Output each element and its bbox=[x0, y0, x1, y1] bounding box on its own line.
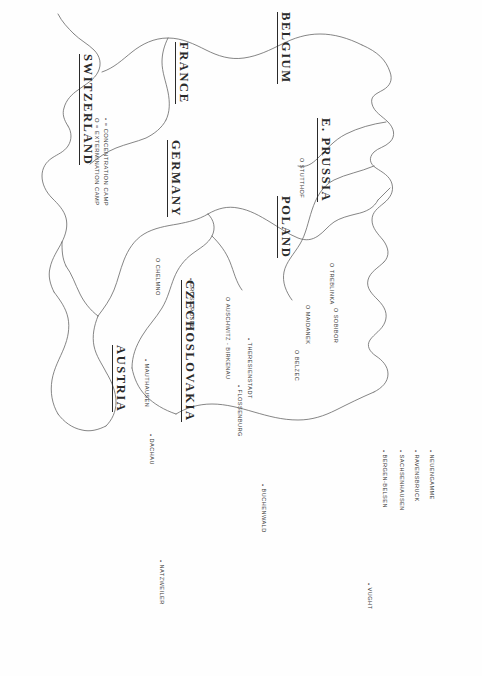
camp-label-treblinka: TREBLINKA bbox=[328, 270, 334, 305]
concentration-camp-icon: • bbox=[381, 450, 387, 453]
camp-natzweiler[interactable]: • NATZWEILER bbox=[158, 560, 164, 605]
border-germany-swiss-line bbox=[62, 242, 66, 266]
extermination-camp-icon: O bbox=[329, 263, 334, 268]
camp-label-mauthausen: MAUTHAUSEN bbox=[143, 364, 149, 408]
map-canvas: E. PRUSSIA POLAND CZECHOSLOVAKIA AUSTRIA… bbox=[0, 0, 482, 676]
camp-label-neuengamme: NEUENGAMME bbox=[428, 455, 434, 500]
concentration-camp-icon: • bbox=[428, 450, 434, 453]
camp-auschwitz-birkenau[interactable]: O AUSCHWITZ - BIRKENAU bbox=[224, 297, 230, 379]
camp-label-natzweiler: NATZWEILER bbox=[158, 565, 164, 605]
camp-gross-rosen[interactable]: • GROSS-ROSEN bbox=[188, 278, 194, 329]
concentration-camp-icon: • bbox=[413, 450, 419, 453]
border-germany-poland bbox=[208, 200, 378, 240]
border-poland-east bbox=[176, 392, 374, 420]
concentration-camp-icon: • bbox=[148, 434, 154, 437]
concentration-camp-icon: • bbox=[366, 583, 372, 586]
extermination-camp-icon: O bbox=[294, 350, 299, 355]
map-legend: • = CONCENTRATION CAMP O = EXTERMINATION… bbox=[92, 118, 110, 206]
camp-label-belzec: BELZEC bbox=[293, 357, 299, 381]
concentration-camp-icon: • bbox=[188, 278, 194, 281]
camp-label-gross-rosen: GROSS-ROSEN bbox=[188, 283, 194, 330]
camp-chelmno[interactable]: O CHELMNO bbox=[154, 258, 160, 296]
camp-sachsenhausen[interactable]: • SACHSENHAUSEN bbox=[398, 450, 404, 511]
border-baltic-coast-east bbox=[368, 262, 388, 392]
border-poland-czechoslovakia bbox=[132, 214, 214, 368]
camp-label-vught: VUGHT bbox=[366, 588, 372, 610]
extermination-camp-icon: O bbox=[225, 297, 230, 302]
border-belgium-south bbox=[162, 38, 169, 120]
border-germany-south bbox=[66, 266, 98, 316]
border-austria-east bbox=[58, 414, 106, 431]
concentration-camp-icon: • bbox=[398, 450, 404, 453]
camp-stutthof[interactable]: O STUTTHOF bbox=[298, 158, 304, 198]
concentration-camp-icon: • bbox=[246, 338, 252, 341]
border-east-prussia-west bbox=[298, 122, 386, 167]
camp-label-bergen-belsen: BERGEN-BELSEN bbox=[381, 455, 387, 508]
country-borders bbox=[0, 0, 482, 676]
camp-label-stutthof: STUTTHOF bbox=[298, 165, 304, 198]
camp-belzec[interactable]: O BELZEC bbox=[293, 350, 299, 381]
camp-flossenburg[interactable]: • FLOSSENBURG bbox=[236, 385, 242, 437]
border-switzerland bbox=[42, 126, 71, 242]
camp-label-flossenburg: FLOSSENBURG bbox=[236, 390, 242, 437]
country-label-east-prussia: E. PRUSSIA bbox=[318, 118, 333, 202]
concentration-camp-icon: • bbox=[236, 385, 242, 388]
camp-theresienstadt[interactable]: • THERESIENSTADT bbox=[246, 338, 252, 399]
camp-mauthausen[interactable]: • MAUTHAUSEN bbox=[143, 359, 149, 407]
camp-label-dachau: DACHAU bbox=[148, 439, 154, 465]
extermination-camp-icon: O bbox=[305, 305, 310, 310]
legend-concentration-camp: • = CONCENTRATION CAMP bbox=[101, 118, 110, 206]
camp-vught[interactable]: • VUGHT bbox=[366, 583, 372, 609]
camp-label-ravensbruck: RAVENSBRUCK bbox=[413, 455, 419, 502]
country-label-poland: POLAND bbox=[278, 196, 293, 258]
camp-label-maidanek: MAIDANEK bbox=[304, 312, 310, 345]
camp-treblinka[interactable]: O TREBLINKA bbox=[328, 263, 334, 305]
camp-bergen-belsen[interactable]: • BERGEN-BELSEN bbox=[381, 450, 387, 508]
extermination-camp-icon: O bbox=[299, 158, 304, 163]
camps-map: E. PRUSSIA POLAND CZECHOSLOVAKIA AUSTRIA… bbox=[0, 0, 482, 676]
country-label-germany: GERMANY bbox=[168, 140, 183, 217]
camp-label-auschwitz-birkenau: AUSCHWITZ - BIRKENAU bbox=[224, 304, 230, 380]
camp-neuengamme[interactable]: • NEUENGAMME bbox=[428, 450, 434, 500]
border-poland-southeast bbox=[132, 368, 176, 414]
legend-extermination-camp: O = EXTERMINATION CAMP bbox=[92, 118, 101, 206]
concentration-camp-icon: • bbox=[143, 359, 149, 362]
camp-label-theresienstadt: THERESIENSTADT bbox=[246, 343, 252, 399]
camp-buchenwald[interactable]: • BUCHENWALD bbox=[260, 484, 266, 533]
extermination-camp-icon: O bbox=[155, 258, 160, 263]
border-austria-south bbox=[51, 292, 69, 414]
camp-label-sobibor: SOBIBOR bbox=[332, 315, 338, 344]
camp-ravensbruck[interactable]: • RAVENSBRUCK bbox=[413, 450, 419, 502]
camp-label-buchenwald: BUCHENWALD bbox=[260, 489, 266, 533]
concentration-camp-icon: • bbox=[260, 484, 266, 487]
border-north-sea-coast bbox=[362, 45, 394, 262]
country-label-austria: AUSTRIA bbox=[113, 345, 128, 412]
camp-label-sachsenhausen: SACHSENHAUSEN bbox=[398, 455, 404, 511]
border-belgium-netherlands bbox=[102, 34, 362, 72]
camp-dachau[interactable]: • DACHAU bbox=[148, 434, 154, 465]
extermination-camp-icon: O bbox=[333, 308, 338, 313]
camp-maidanek[interactable]: O MAIDANEK bbox=[304, 305, 310, 344]
country-label-france: FRANCE bbox=[176, 42, 191, 104]
border-austria-switzerland bbox=[49, 242, 62, 292]
camp-label-chelmno: CHELMNO bbox=[154, 265, 160, 296]
border-france-belgium bbox=[58, 14, 74, 34]
country-label-belgium: BELGIUM bbox=[278, 12, 293, 84]
border-silesia-inner bbox=[212, 236, 242, 290]
camp-sobibor[interactable]: O SOBIBOR bbox=[332, 308, 338, 343]
concentration-camp-icon: • bbox=[158, 560, 164, 563]
